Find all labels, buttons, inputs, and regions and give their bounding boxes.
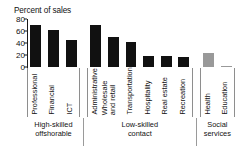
group-footer-label-2: Socialservices [200, 121, 235, 138]
bar-administrative [90, 25, 101, 67]
bar-education [221, 66, 232, 67]
y-axis-ticks: 80 60 40 20 0 [0, 0, 25, 151]
group-label-line2: offshorable [27, 130, 80, 139]
category-label-financial: Financial [49, 85, 57, 115]
bar-health [203, 53, 214, 67]
bar-ict [66, 40, 77, 67]
plot-area [27, 19, 235, 67]
y-tick-label-40: 40 [16, 40, 25, 48]
category-label-transportation: Transportation [126, 68, 134, 115]
group-separator-2 [196, 118, 197, 146]
group-label-line2: contact [87, 130, 193, 139]
category-label-professional: Professional [31, 74, 39, 115]
group-label-line2: services [200, 130, 235, 139]
bar-professional [30, 25, 41, 67]
category-label-hospitality: Hospitality [144, 81, 152, 115]
bar-financial [48, 30, 59, 67]
bar-chart: Percent of sales 80 60 40 20 0 Professio… [0, 0, 243, 151]
category-label-recreation: Recreation [179, 79, 187, 115]
category-label-real-estate: Real estate [162, 78, 170, 115]
group-label-band: High-skilledoffshorableLow-skilledcontac… [27, 118, 235, 148]
y-tick-label-0: 0 [21, 64, 25, 72]
group-footer-label-1: Low-skilledcontact [87, 121, 193, 138]
bar-hospitality [143, 56, 154, 67]
y-tick-label-20: 20 [16, 52, 25, 60]
y-tick-label-80: 80 [16, 16, 25, 24]
bar-real-estate [161, 56, 172, 67]
y-tick-label-60: 60 [16, 28, 25, 36]
bar-recreation [178, 57, 189, 67]
category-label-band: ProfessionalFinancialICTAdministrativeWh… [27, 68, 235, 117]
category-label-health: Health [204, 94, 212, 115]
group-separator-1 [83, 118, 84, 146]
category-label-ict: ICT [66, 103, 74, 115]
category-label-education: Education [222, 82, 230, 115]
bar-transportation [126, 42, 137, 67]
group-footer-label-0: High-skilledoffshorable [27, 121, 80, 138]
category-label-wholesale-and-retail: Wholesale and retail [101, 69, 116, 115]
category-label-administrative: Administrative [91, 69, 99, 115]
bar-wholesale-and-retail [108, 37, 119, 67]
